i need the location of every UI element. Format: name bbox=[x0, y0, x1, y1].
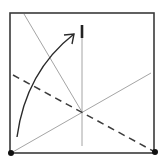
background bbox=[0, 0, 167, 166]
bottom-right-corner-dot bbox=[152, 149, 158, 155]
fold-diagram bbox=[0, 0, 167, 166]
bottom-left-corner-dot bbox=[8, 150, 14, 156]
